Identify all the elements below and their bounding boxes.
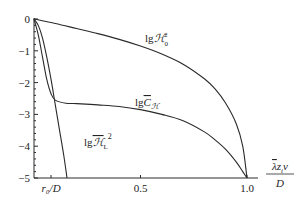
y-tick-label: −3 (18, 108, 30, 120)
x-axis-title-numerator: λziv (271, 160, 288, 175)
y-tick-label: −1 (18, 45, 30, 57)
x-tick-label: 0.5 (134, 182, 148, 194)
x-tick-label: r₀/D (41, 182, 60, 194)
y-tick-label: −5 (18, 172, 30, 184)
x-axis-title: λziv D (266, 160, 294, 189)
x-axis-title-denominator: D (275, 177, 284, 189)
y-tick-label: −4 (18, 140, 30, 152)
chart: 0−1−2−3−4−5 r₀/D0.51.0 lgℋ02 lgCℋ lgℋL2 … (0, 0, 304, 204)
label-lg-h0-squared: lgℋ02 (145, 31, 169, 48)
y-ticks: 0−1−2−3−4−5 (18, 13, 38, 184)
y-tick-label: 0 (25, 13, 31, 25)
curve-lg-h-l-2 (34, 19, 67, 178)
y-tick-label: −2 (18, 77, 30, 89)
label-lg-hl-squared: lgℋL2 (84, 132, 112, 151)
x-tick-label: 1.0 (240, 182, 254, 194)
